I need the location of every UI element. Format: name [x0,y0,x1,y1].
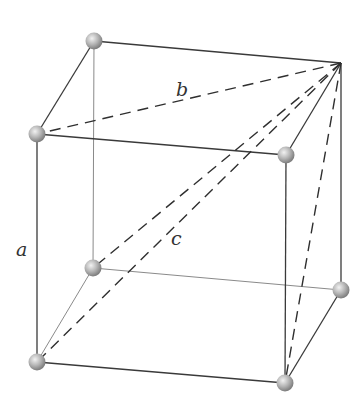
diagonal-to-bottom-back-left [93,63,341,268]
edge-top-front [37,134,286,155]
vertices [29,33,350,392]
vertex-bottom-front-right [277,375,294,392]
cube-svg: b c a [0,0,359,408]
edge-back-left-vertical [93,41,94,268]
vertex-top-front-left [29,126,46,143]
edge-front-right-vertical [285,155,286,383]
label-a: a [16,238,27,260]
vertex-bottom-back-left [85,260,102,277]
space-diagonal-c [37,63,341,362]
edge-bottom-front [37,362,285,383]
front-edges [37,41,341,383]
back-edges [37,41,341,362]
vertex-bottom-back-right [333,282,350,299]
diagonals [37,63,341,383]
edge-bottom-left [37,268,93,362]
vertex-top-front-right [278,147,295,164]
label-b: b [176,78,188,100]
edge-top-back [94,41,341,63]
vertex-bottom-front-left [29,354,46,371]
cube-diagram: b c a [0,0,359,408]
label-c: c [171,227,182,249]
edge-top-left [37,41,94,134]
face-diagonal-b [37,63,341,134]
vertex-top-back-left [86,33,103,50]
